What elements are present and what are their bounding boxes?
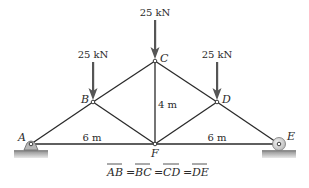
truss-members	[31, 61, 279, 144]
dimension-right-span: 6 m	[207, 132, 227, 143]
node-label-C: C	[160, 52, 169, 65]
member-CD	[155, 61, 217, 102]
eq-term-BC: BC	[134, 166, 152, 179]
member-BC	[93, 61, 155, 102]
joint-B	[91, 100, 95, 104]
dimension-left-span: 6 m	[82, 132, 102, 143]
dimension-height: 4 m	[158, 99, 178, 110]
load-label-D: 25 kN	[202, 49, 233, 60]
node-label-E: E	[286, 130, 295, 143]
load-label-C: 25 kN	[140, 7, 171, 18]
member-length-equation: AB = BC = CD = DE	[106, 164, 209, 179]
node-label-F: F	[150, 147, 159, 160]
joint-D	[215, 100, 219, 104]
node-label-A: A	[17, 131, 26, 144]
eq-term-DE: DE	[191, 166, 209, 179]
load-arrow-C-icon	[151, 20, 160, 59]
eq-sep-3: =	[183, 166, 192, 179]
eq-sep-1: =	[126, 166, 135, 179]
joint-E	[277, 142, 281, 146]
ground-right	[262, 150, 296, 158]
ground-left	[14, 150, 48, 158]
truss-diagram: 25 kN 25 kN 25 kN A B C D E F 6 m 6 m 4 …	[0, 0, 309, 188]
node-label-B: B	[80, 93, 89, 106]
joint-F	[153, 142, 157, 146]
load-arrow-B-icon	[89, 62, 98, 100]
node-label-D: D	[221, 93, 231, 106]
joint-C	[153, 59, 157, 63]
eq-sep-2: =	[154, 166, 163, 179]
eq-term-AB: AB	[106, 166, 123, 179]
joint-A	[29, 142, 33, 146]
eq-term-CD: CD	[163, 166, 180, 179]
member-BF	[93, 102, 155, 144]
load-label-B: 25 kN	[78, 49, 109, 60]
load-arrow-D-icon	[213, 62, 222, 100]
